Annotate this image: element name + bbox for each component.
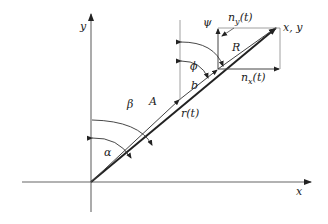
psi-label: ψ [203, 17, 212, 28]
alpha-arc [92, 138, 131, 158]
ny-arg: (t) [240, 11, 253, 24]
tip-label: x, y [283, 22, 302, 33]
b-label: b [191, 80, 198, 91]
phi-label: ϕ [190, 61, 198, 72]
alpha-label: α [104, 147, 111, 158]
ny-pointer [222, 28, 234, 36]
axes [22, 14, 311, 212]
psi-arc [181, 42, 223, 66]
vector-r [91, 28, 276, 182]
beta-label: β [127, 99, 133, 110]
vector-big-r [218, 29, 274, 69]
diagram-svg [0, 0, 328, 224]
vector-a [91, 100, 179, 182]
beta-arc [92, 120, 152, 145]
big-r-label: R [232, 42, 240, 53]
r-t-label: r(t) [181, 108, 199, 119]
x-axis-label: x [296, 186, 302, 197]
ny-label: ny(t) [228, 12, 253, 26]
diagram-canvas: y x α β A r(t) ϕ b ψ R x, y ny(t) nx(t) [0, 0, 328, 224]
a-label: A [149, 96, 157, 107]
nx-label: nx(t) [241, 72, 266, 86]
y-axis-label: y [80, 21, 86, 32]
nx-arg: (t) [253, 71, 266, 84]
